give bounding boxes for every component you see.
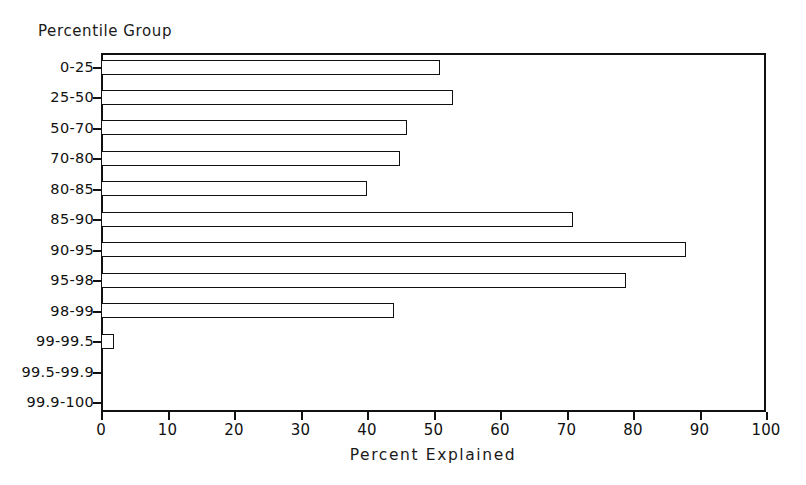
x-tick-mark — [766, 412, 768, 420]
y-tick-label: 25-50 — [50, 89, 94, 105]
x-tick-mark — [301, 412, 303, 420]
bar — [101, 334, 114, 349]
y-tick-label: 95-98 — [50, 272, 94, 288]
bar — [101, 60, 440, 75]
x-axis-title-wrap: Percent Explained — [0, 446, 806, 464]
x-tick-label: 20 — [224, 421, 244, 439]
bars-layer — [101, 53, 766, 412]
x-tick-mark — [700, 412, 702, 420]
x-tick-mark — [434, 412, 436, 420]
x-tick-label: 40 — [357, 421, 377, 439]
y-tick-label: 99.9-100 — [26, 394, 94, 410]
y-tick-label: 99-99.5 — [36, 333, 94, 349]
y-tick-label: 80-85 — [50, 181, 94, 197]
x-axis-title: Percent Explained — [290, 446, 517, 464]
bar — [101, 120, 407, 135]
y-tick-mark — [93, 250, 102, 252]
x-tick-mark — [101, 412, 103, 420]
x-tick-mark — [567, 412, 569, 420]
x-tick-mark — [367, 412, 369, 420]
y-tick-label: 98-99 — [50, 303, 94, 319]
y-tick-mark — [93, 67, 102, 69]
y-tick-label: 50-70 — [50, 120, 94, 136]
y-tick-mark — [93, 97, 102, 99]
y-tick-mark — [93, 372, 102, 374]
y-tick-label: 0-25 — [60, 59, 94, 75]
y-tick-mark — [93, 219, 102, 221]
y-tick-mark — [93, 158, 102, 160]
bar-chart: Percentile Group 0-2525-5050-7070-8080-8… — [0, 0, 806, 485]
y-tick-mark — [93, 128, 102, 130]
bar — [101, 212, 573, 227]
y-tick-label: 99.5-99.9 — [21, 364, 94, 380]
bar — [101, 181, 367, 196]
bar — [101, 242, 686, 257]
y-tick-mark — [93, 311, 102, 313]
x-tick-mark — [168, 412, 170, 420]
bar — [101, 303, 394, 318]
x-tick-label: 80 — [623, 421, 643, 439]
x-tick-label: 50 — [424, 421, 444, 439]
y-tick-mark — [93, 402, 102, 404]
x-tick-label: 30 — [291, 421, 311, 439]
bar — [101, 151, 400, 166]
x-tick-label: 0 — [96, 421, 106, 439]
x-tick-label: 10 — [158, 421, 178, 439]
y-tick-label: 70-80 — [50, 150, 94, 166]
x-tick-label: 70 — [557, 421, 577, 439]
x-tick-label: 90 — [690, 421, 710, 439]
y-tick-mark — [93, 189, 102, 191]
x-tick-mark — [500, 412, 502, 420]
x-tick-label: 100 — [751, 421, 780, 439]
x-tick-label: 60 — [490, 421, 510, 439]
y-tick-mark — [93, 341, 102, 343]
bar — [101, 273, 626, 288]
x-tick-mark — [234, 412, 236, 420]
bar — [101, 90, 453, 105]
x-tick-mark — [633, 412, 635, 420]
y-tick-mark — [93, 280, 102, 282]
y-axis-title: Percentile Group — [38, 22, 172, 40]
y-tick-label: 85-90 — [50, 211, 94, 227]
y-tick-label: 90-95 — [50, 242, 94, 258]
